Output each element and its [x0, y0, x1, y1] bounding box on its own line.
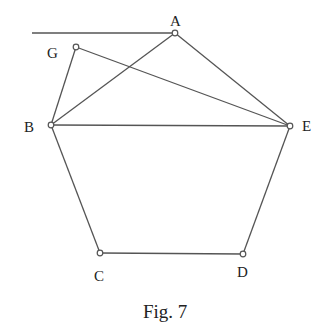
label-A: A: [170, 13, 181, 29]
segment-AE: [175, 33, 290, 126]
geometry-diagram: A G B E C D Fig. 7: [0, 0, 327, 327]
label-B: B: [24, 119, 34, 135]
segment-BC: [51, 125, 100, 253]
segment-BE: [51, 125, 290, 126]
point-E-marker: [287, 123, 293, 129]
point-G-marker: [73, 44, 79, 50]
segment-GE: [76, 47, 290, 126]
figure-caption: Fig. 7: [143, 301, 187, 322]
segment-DE: [243, 126, 290, 254]
point-C-marker: [97, 250, 103, 256]
segment-CD: [100, 253, 243, 254]
label-G: G: [47, 45, 58, 61]
figure-canvas: A G B E C D Fig. 7: [0, 0, 327, 327]
label-C: C: [94, 268, 104, 284]
point-A-marker: [172, 30, 178, 36]
label-E: E: [302, 118, 311, 134]
label-D: D: [237, 264, 248, 280]
segment-AB: [51, 33, 175, 125]
point-D-marker: [240, 251, 246, 257]
point-B-marker: [48, 122, 54, 128]
